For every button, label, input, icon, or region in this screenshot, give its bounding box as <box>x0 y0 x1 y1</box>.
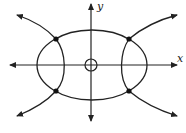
intersection-point <box>126 88 131 93</box>
conic-diagram <box>0 0 186 133</box>
x-axis-label: x <box>177 53 183 64</box>
hyperbola-right-lower <box>129 91 177 116</box>
y-axis-label: y <box>97 1 103 12</box>
hyperbola-right-upper <box>129 15 177 39</box>
intersection-point <box>126 36 131 41</box>
intersection-point <box>53 36 58 41</box>
intersection-point <box>53 88 58 93</box>
hyperbola-left-upper <box>17 15 56 39</box>
hyperbola-left-lower <box>17 91 56 116</box>
